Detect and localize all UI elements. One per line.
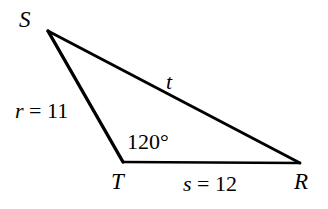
vertex-label-T: T bbox=[111, 170, 124, 193]
side-r-value: 11 bbox=[47, 98, 68, 123]
edge-T-R bbox=[123, 162, 300, 163]
geometry-figure: S T R r = 11 s = 12 t 120° bbox=[0, 0, 328, 209]
side-r-variable: r bbox=[15, 98, 24, 123]
side-length-label-r: r = 11 bbox=[15, 100, 68, 122]
side-t-variable: t bbox=[166, 69, 172, 94]
side-length-label-s: s = 12 bbox=[183, 173, 237, 195]
side-length-label-t: t bbox=[166, 71, 172, 93]
angle-measure-label-T: 120° bbox=[127, 131, 169, 153]
side-s-equals: = bbox=[192, 171, 215, 196]
side-s-value: 12 bbox=[215, 171, 237, 196]
vertex-label-R: R bbox=[294, 170, 308, 193]
side-s-variable: s bbox=[183, 171, 192, 196]
vertex-label-S: S bbox=[19, 8, 31, 31]
side-r-equals: = bbox=[24, 98, 47, 123]
